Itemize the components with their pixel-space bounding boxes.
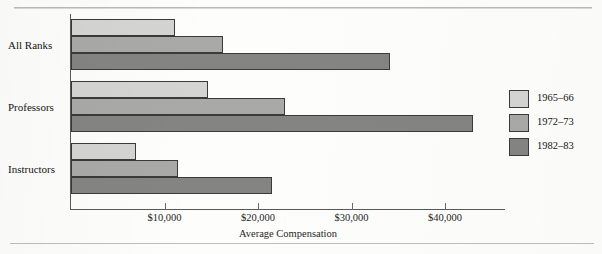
- x-axis-tick-label: $30,000: [334, 212, 368, 223]
- legend-swatch-icon: [509, 138, 529, 156]
- chart-page: Average Compensation $10,000$20,000$30,0…: [0, 0, 602, 254]
- bar-professors-1965–66: [71, 81, 208, 98]
- bar-all-ranks-1982–83: [71, 53, 390, 70]
- bar-all-ranks-1972–73: [71, 36, 223, 53]
- legend-label: 1982–83: [537, 140, 574, 151]
- x-axis-tick: [352, 203, 353, 210]
- bar-professors-1972–73: [71, 98, 285, 115]
- bar-instructors-1982–83: [71, 177, 272, 194]
- legend-swatch-icon: [509, 90, 529, 108]
- x-axis-line: [70, 209, 505, 210]
- bar-all-ranks-1965–66: [71, 19, 175, 36]
- y-axis-category-label: Instructors: [8, 163, 55, 175]
- legend-swatch-icon: [509, 114, 529, 132]
- bar-instructors-1965–66: [71, 143, 136, 160]
- x-axis-tick: [445, 203, 446, 210]
- y-axis-category-label: All Ranks: [8, 39, 52, 51]
- x-axis-tick: [165, 203, 166, 210]
- bar-instructors-1972–73: [71, 160, 178, 177]
- legend-label: 1965–66: [537, 92, 574, 103]
- x-axis-tick-label: $40,000: [428, 212, 462, 223]
- x-axis-tick: [258, 203, 259, 210]
- y-axis-category-label: Professors: [8, 101, 54, 113]
- x-axis-tick-label: $20,000: [241, 212, 275, 223]
- legend-label: 1972–73: [537, 116, 574, 127]
- x-axis-title: Average Compensation: [239, 228, 337, 239]
- bar-professors-1982–83: [71, 115, 473, 132]
- x-axis-tick-label: $10,000: [147, 212, 181, 223]
